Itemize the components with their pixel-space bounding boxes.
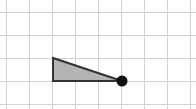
grid-layer: [0, 0, 196, 109]
grid-vertical-lines: [7, 0, 191, 109]
diagram-canvas: [0, 0, 196, 109]
